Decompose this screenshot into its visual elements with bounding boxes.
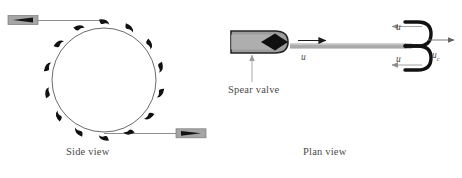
spear-valve-label: Spear valve xyxy=(228,84,279,95)
exit-velocity-bottom-label: u xyxy=(396,54,401,64)
bucket xyxy=(43,61,52,73)
bucket xyxy=(98,135,110,142)
plan-view-caption: Plan view xyxy=(303,146,347,157)
pelton-wheel-figure: Side view Plan view Spear valve u u u uc xyxy=(0,0,462,178)
bucket xyxy=(145,38,154,50)
exit-velocity-top-label: u xyxy=(396,22,401,32)
bucket xyxy=(73,24,85,32)
bucket xyxy=(54,110,63,122)
bucket xyxy=(98,19,110,26)
upper-left-nozzle xyxy=(8,16,38,25)
bucket xyxy=(124,23,136,33)
bucket-lobe-bottom xyxy=(405,46,431,70)
plan-view-group xyxy=(231,22,454,82)
bucket xyxy=(73,127,85,137)
bucket-ring xyxy=(43,19,164,141)
bucket xyxy=(45,87,50,98)
water-jet-highlight xyxy=(290,44,412,46)
lower-right-nozzle xyxy=(176,129,206,138)
bucket xyxy=(156,87,165,99)
runner-velocity-label: uc xyxy=(432,50,440,62)
bucket xyxy=(158,62,163,73)
runner-velocity-subscript: c xyxy=(437,55,440,62)
runner-wheel-circle xyxy=(52,28,156,132)
bucket-lobe-top xyxy=(405,22,431,46)
bucket xyxy=(123,129,135,137)
side-view-group xyxy=(8,16,206,142)
jet-velocity-label: u xyxy=(301,52,306,62)
side-view-caption: Side view xyxy=(66,146,110,157)
